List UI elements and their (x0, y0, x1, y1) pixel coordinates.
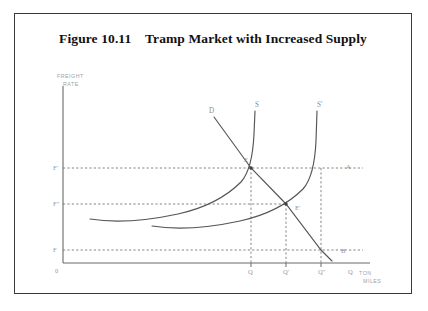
point-label-b: B (341, 247, 345, 255)
y-tick-label-f-prime: F′ (53, 164, 58, 172)
point-e-prime (284, 202, 287, 205)
figure-frame: Figure 10.11 Tramp Market with Increased… (14, 13, 412, 294)
x-axis-label-line1: TON (359, 270, 372, 276)
supply-curve (90, 111, 255, 221)
chart-canvas (15, 14, 413, 295)
demand-curve (214, 117, 332, 261)
x-axis-symbol: Q (348, 268, 353, 276)
y-tick-label-f: F (53, 246, 57, 254)
point-label-a: A (346, 163, 351, 171)
point-label-e: E (244, 156, 248, 164)
x-tick-label-q-prime: Q′ (283, 268, 289, 276)
curve-label-supply-shifted: S′ (317, 101, 323, 109)
y-axis-label-line1: FREIGHT (57, 73, 84, 79)
curve-label-demand: D (209, 107, 214, 115)
y-axis-label-line2: RATE (63, 81, 79, 87)
curve-label-supply: S (255, 101, 259, 109)
origin-label: 0 (55, 267, 58, 275)
supply-curve-shifted (152, 111, 317, 228)
x-tick-label-q: Q (248, 268, 253, 276)
plot-area: FREIGHT RATE F′ F″ F 0 Q Q′ Q″ Q TON MIL… (15, 14, 413, 295)
x-axis-label-line2: MILES (363, 278, 381, 284)
point-label-e-prime: E′ (295, 204, 300, 212)
x-tick-label-q-double-prime: Q″ (318, 268, 326, 276)
y-tick-label-f-double-prime: F″ (53, 200, 59, 208)
point-e (249, 166, 252, 169)
